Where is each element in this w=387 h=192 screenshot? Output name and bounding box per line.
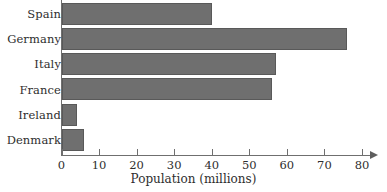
bar-denmark [62, 129, 85, 151]
bar-row: Ireland [0, 102, 387, 127]
x-tick-mark [362, 149, 363, 155]
x-tick-mark [287, 149, 288, 155]
x-tick-label: 40 [204, 158, 219, 172]
x-tick-label: 0 [58, 158, 65, 172]
x-tick-mark [174, 149, 175, 155]
bar-france [62, 78, 272, 100]
bar-row: Italy [0, 52, 387, 77]
x-tick-label: 50 [242, 158, 257, 172]
x-tick-mark [62, 149, 63, 155]
plot-area: Spain Germany Italy France Ireland Denma… [0, 0, 387, 155]
x-tick-mark [324, 149, 325, 155]
x-tick-mark [99, 149, 100, 155]
bar-row: Germany [0, 26, 387, 51]
bar-row: Spain [0, 1, 387, 26]
bar-row: France [0, 77, 387, 102]
category-label-spain: Spain [27, 6, 61, 20]
bar-row: Denmark [0, 128, 387, 153]
x-tick-mark [137, 149, 138, 155]
x-tick-label: 60 [280, 158, 295, 172]
bar-germany [62, 28, 347, 50]
category-label-italy: Italy [34, 57, 61, 71]
bar-italy [62, 53, 276, 75]
bar-ireland [62, 104, 77, 126]
category-label-france: France [19, 82, 61, 96]
x-axis-arrow-icon [370, 151, 378, 159]
x-axis-line [61, 155, 372, 156]
bar-chart: Spain Germany Italy France Ireland Denma… [0, 0, 387, 192]
x-tick-label: 10 [92, 158, 107, 172]
category-label-germany: Germany [7, 32, 61, 46]
x-tick-label: 80 [355, 158, 370, 172]
x-tick-mark [212, 149, 213, 155]
x-tick-label: 30 [167, 158, 182, 172]
x-axis-title: Population (millions) [0, 172, 387, 186]
category-label-ireland: Ireland [18, 108, 61, 122]
x-tick-mark [249, 149, 250, 155]
bar-spain [62, 3, 212, 25]
x-tick-label: 20 [129, 158, 144, 172]
x-tick-label: 70 [317, 158, 332, 172]
category-label-denmark: Denmark [7, 133, 61, 147]
